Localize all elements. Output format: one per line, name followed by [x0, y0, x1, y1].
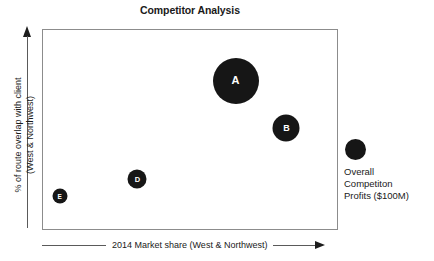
legend: Overall Competiton Profits ($100M): [344, 139, 432, 202]
bubble-b[interactable]: B: [273, 115, 300, 142]
bubble-e[interactable]: E: [52, 189, 67, 204]
y-axis-label-line-1: % of route overlap with client: [12, 50, 24, 220]
bubble-d[interactable]: D: [128, 170, 147, 189]
legend-label-line-3: Profits ($100M): [344, 190, 432, 202]
x-axis-rule-left: [42, 245, 106, 246]
chart-title: Competitor Analysis: [42, 4, 338, 16]
y-axis-label-line-2: (West & Northwest): [24, 50, 36, 220]
plot-area: ABDE: [43, 30, 337, 229]
bubble-label: B: [283, 124, 290, 133]
x-axis-label: 2014 Market share (West & Northwest): [106, 240, 273, 250]
legend-label: Overall Competiton Profits ($100M): [344, 166, 432, 202]
bubble-a[interactable]: A: [213, 58, 259, 104]
plot-frame: ABDE: [42, 29, 338, 230]
x-axis-arrow-icon: [315, 241, 325, 249]
x-axis: 2014 Market share (West & Northwest): [42, 238, 338, 252]
bubble-label: D: [135, 176, 140, 184]
bubble-label: E: [58, 193, 62, 200]
bubble-label: A: [232, 75, 240, 86]
y-axis-label: % of route overlap with client (West & N…: [12, 50, 36, 220]
competitor-analysis-chart: Competitor Analysis % of route overlap w…: [0, 0, 434, 261]
legend-label-line-2: Competiton: [344, 178, 432, 190]
legend-bubble-icon: [345, 139, 366, 160]
legend-label-line-1: Overall: [344, 166, 432, 178]
x-axis-rule-right: [273, 245, 315, 246]
y-axis-line: [27, 36, 28, 228]
